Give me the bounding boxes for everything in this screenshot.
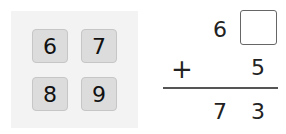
number-tile-panel bbox=[11, 11, 138, 128]
plus-sign: + bbox=[171, 56, 193, 82]
number-tile-9[interactable]: 9 bbox=[81, 77, 117, 111]
sum-tens-digit: 7 bbox=[213, 101, 227, 123]
sum-line bbox=[163, 87, 278, 89]
sum-ones-digit: 3 bbox=[251, 101, 265, 123]
number-tile-8[interactable]: 8 bbox=[32, 77, 68, 111]
number-tile-7[interactable]: 7 bbox=[81, 29, 117, 63]
addend-ones-digit: 5 bbox=[251, 57, 265, 79]
answer-drop-box[interactable] bbox=[240, 10, 277, 45]
top-tens-digit: 6 bbox=[213, 19, 227, 41]
number-tile-6[interactable]: 6 bbox=[32, 29, 68, 63]
